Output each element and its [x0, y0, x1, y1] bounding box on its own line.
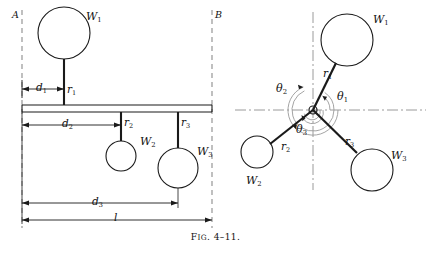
r1-label-sub: 1 — [72, 89, 76, 97]
r1-end-label-sub: 1 — [328, 73, 332, 81]
w2-label-end-view: W2 — [246, 175, 262, 188]
w2-end-label-text: W — [246, 174, 257, 187]
w1-label-end-view: W1 — [373, 14, 389, 27]
w1-end-label-sub: 1 — [384, 19, 388, 27]
w3-label: W3 — [197, 146, 213, 159]
theta2-label-text: θ — [276, 82, 283, 95]
theta2-label-sub: 2 — [283, 88, 287, 96]
r2-label: r2 — [124, 117, 133, 129]
w1-label-text: W — [86, 10, 97, 23]
theta2-arrowhead — [297, 83, 304, 90]
d2-label-text: d — [62, 117, 69, 129]
l-label: l — [114, 212, 117, 223]
w3-end-label-sub: 3 — [402, 155, 406, 163]
theta1-label-text: θ — [337, 90, 344, 103]
theta1-label-sub: 1 — [344, 96, 348, 104]
w3-label-sub: 3 — [208, 151, 212, 159]
w3-end-label-text: W — [391, 149, 402, 162]
caption-smallcaps: IG — [197, 233, 207, 242]
w3-label-text: W — [197, 145, 208, 158]
theta1-arc-outer — [325, 93, 334, 111]
w2-label-text: W — [140, 135, 151, 148]
w1-label-sub: 1 — [97, 16, 101, 24]
caption-rest: . 4–11. — [207, 232, 240, 242]
w1-label: W1 — [86, 11, 102, 24]
d2-label: d2 — [62, 118, 73, 130]
theta3-label-sub: 3 — [303, 129, 307, 137]
w2-end-label-sub: 2 — [257, 180, 261, 188]
d1-label: d1 — [36, 82, 47, 94]
r1-label: r1 — [67, 84, 76, 96]
theta3-label-text: θ — [296, 123, 303, 136]
w2-circle-end-view — [241, 136, 273, 168]
theta1-label: θ1 — [337, 91, 348, 104]
d3-label-text: d — [92, 195, 99, 207]
plane-a-label: A — [12, 10, 19, 20]
w2-label: W2 — [140, 136, 156, 149]
plane-b-label: B — [215, 10, 222, 20]
w2-label-sub: 2 — [151, 141, 155, 149]
w3-circle — [158, 148, 198, 188]
r3-label-sub: 3 — [186, 122, 190, 130]
w3-circle-end-view — [351, 149, 393, 191]
w3-label-end-view: W3 — [391, 150, 407, 163]
d3-label-sub: 3 — [99, 201, 103, 209]
r3-label: r3 — [181, 117, 190, 129]
r2-label-sub: 2 — [129, 122, 133, 130]
theta3-label: θ3 — [296, 124, 307, 137]
w2-circle — [106, 141, 136, 171]
right-diagram — [235, 12, 426, 191]
d1-label-text: d — [36, 81, 43, 93]
w1-circle-end-view — [321, 14, 373, 66]
r2-end-label-sub: 2 — [286, 146, 290, 154]
r1-label-end-view: r1 — [323, 68, 332, 80]
r3-label-end-view: r3 — [345, 136, 354, 148]
theta2-label: θ2 — [276, 83, 287, 96]
r2-label-end-view: r2 — [281, 141, 290, 153]
w1-end-label-text: W — [373, 13, 384, 26]
w1-circle — [38, 7, 90, 59]
d3-label: d3 — [92, 196, 103, 208]
r3-end-label-sub: 3 — [350, 141, 354, 149]
d2-label-sub: 2 — [69, 123, 73, 131]
d1-label-sub: 1 — [43, 87, 47, 95]
figure-caption: FIG. 4–11. — [0, 232, 431, 242]
